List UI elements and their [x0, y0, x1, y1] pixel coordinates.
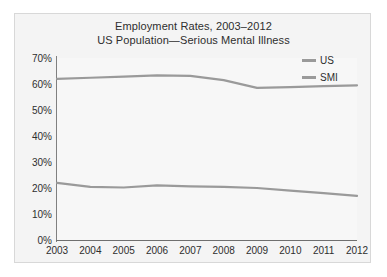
chart-legend: US SMI [302, 52, 372, 86]
series-line-smi [57, 183, 357, 196]
legend-item-us[interactable]: US [302, 52, 372, 69]
series-layer [0, 0, 387, 277]
legend-label-smi: SMI [320, 73, 338, 83]
legend-swatch-us-icon [302, 59, 316, 62]
legend-swatch-smi-icon [302, 76, 316, 79]
legend-label-us: US [320, 56, 334, 66]
legend-item-smi[interactable]: SMI [302, 69, 372, 86]
chart-figure: Employment Rates, 2003–2012 US Populatio… [0, 0, 387, 277]
